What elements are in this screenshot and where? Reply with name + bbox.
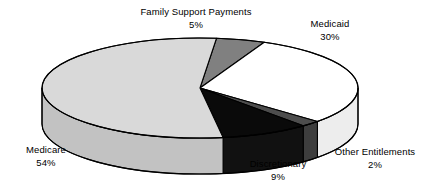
- slice-label-name: Other Entitlements: [295, 146, 430, 159]
- slice-label-value: 54%: [0, 157, 126, 170]
- slice-label-value: 9%: [198, 171, 358, 184]
- slice-label-name: Medicare: [0, 144, 126, 157]
- slice-label-medicare: Medicare54%: [0, 144, 126, 169]
- pie-chart: Family Support Payments5%Medicaid30%Othe…: [0, 0, 430, 190]
- slice-label-medicaid: Medicaid30%: [250, 18, 410, 43]
- slice-label-name: Family Support Payments: [116, 6, 276, 19]
- pie-top-faces: [42, 38, 358, 138]
- slice-label-discretionary: Discretionary9%: [198, 158, 358, 183]
- slice-label-name: Discretionary: [198, 158, 358, 171]
- slice-label-name: Medicaid: [250, 18, 410, 31]
- slice-label-value: 30%: [250, 31, 410, 44]
